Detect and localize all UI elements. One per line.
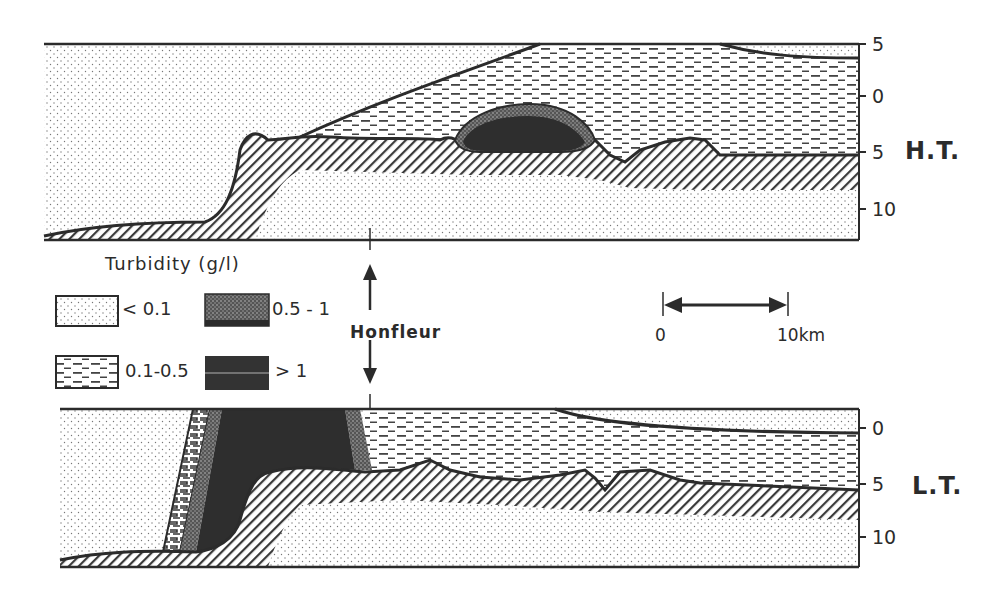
scale-bar	[663, 292, 788, 316]
ht-axis-tick-0: 0	[872, 85, 884, 107]
honfleur-marker	[363, 228, 377, 410]
lt-axis-tick-5: 5	[872, 473, 884, 495]
legend-label-0-1-0-5: 0.1-0.5	[125, 360, 189, 381]
lt-axis-tick-0: 0	[872, 417, 884, 439]
legend-label-0-5-1: 0.5 - 1	[272, 298, 330, 319]
low-tide-label: L.T.	[912, 472, 962, 500]
low-tide-panel	[60, 409, 866, 567]
ht-axis-tick-5-top: 5	[872, 33, 884, 55]
scale-start-label: 0	[655, 325, 666, 345]
legend-swatch-0-1-0-5	[56, 356, 118, 388]
legend-title: Turbidity (g/l)	[105, 253, 240, 274]
legend-swatch-lt-0-1	[56, 296, 118, 326]
scale-end-label: 10km	[777, 325, 825, 345]
high-tide-panel	[44, 44, 866, 240]
arrow-up-icon	[363, 264, 377, 280]
legend-label-lt-0-1: < 0.1	[122, 298, 171, 319]
ht-axis-tick-10: 10	[872, 198, 896, 220]
high-tide-label: H.T.	[905, 137, 960, 165]
ht-axis-tick-5: 5	[872, 141, 884, 163]
lt-axis-tick-10: 10	[872, 526, 896, 548]
legend-label-gt-1: > 1	[275, 360, 307, 381]
arrow-down-icon	[363, 368, 377, 384]
honfleur-label: Honfleur	[350, 322, 441, 342]
